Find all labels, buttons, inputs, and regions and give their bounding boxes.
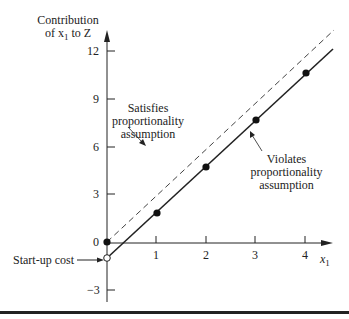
y-label-line2: of x1 to Z <box>36 27 100 44</box>
x-axis-arrow-icon <box>321 240 333 246</box>
satisfies-text-3: assumption <box>103 128 193 141</box>
origin-point <box>103 238 110 245</box>
x-tick-3: 3 <box>252 248 258 263</box>
startup-cost-label: Start-up cost <box>13 254 74 267</box>
y-tick-12: 12 <box>87 44 99 59</box>
violates-arrow-head-icon <box>250 131 255 138</box>
y-tick-neg3: −3 <box>87 283 100 298</box>
data-point <box>202 163 209 170</box>
violates-text-3: assumption <box>244 179 329 192</box>
y-tick-6: 6 <box>93 140 99 155</box>
x-label-sub: 1 <box>325 258 330 268</box>
y-tick-0: 0 <box>93 235 99 250</box>
x-axis-label: x1 <box>320 253 330 270</box>
violates-annotation: Violates proportionality assumption <box>244 153 329 192</box>
y-label-tail: to Z <box>68 26 91 40</box>
data-point <box>252 116 259 123</box>
x-ticks <box>156 236 305 243</box>
bottom-rule <box>0 311 349 314</box>
data-point <box>302 69 309 76</box>
y-tick-3: 3 <box>93 187 99 202</box>
x-tick-4: 4 <box>302 248 308 263</box>
startup-cost-point <box>104 255 111 262</box>
y-axis-label: Contribution of x1 to Z <box>36 14 100 44</box>
x-tick-1: 1 <box>153 248 159 263</box>
data-point <box>153 209 160 216</box>
y-axis-arrow-icon <box>104 30 110 42</box>
startup-arrow-head-icon <box>97 258 104 263</box>
y-tick-9: 9 <box>93 92 99 107</box>
violates-arrow <box>252 135 262 151</box>
y-label-of-x: of x <box>45 26 64 40</box>
satisfies-annotation: Satisfies proportionality assumption <box>103 102 193 141</box>
x-tick-2: 2 <box>203 248 209 263</box>
